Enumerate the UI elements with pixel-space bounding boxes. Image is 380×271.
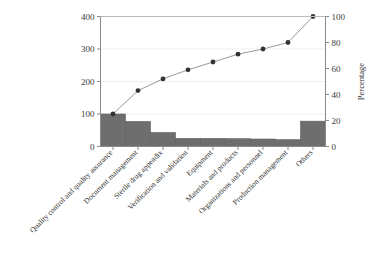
y-tick-label-right-2: 40 <box>332 90 342 100</box>
cumulative-point-8 <box>286 40 291 45</box>
bar-3 <box>151 133 176 147</box>
y-tick-label-right-0: 0 <box>332 142 337 152</box>
bar-8 <box>276 140 301 147</box>
percentage-axis-title: Percentage <box>356 63 366 101</box>
bar-2 <box>126 121 151 146</box>
cumulative-point-6 <box>236 52 241 57</box>
y-tick-label-left-4: 400 <box>81 12 95 22</box>
chart-canvas: 0100200300400 020406080100 Quality contr… <box>0 0 380 271</box>
y-tick-label-left-1: 100 <box>81 109 95 119</box>
bar-1 <box>101 114 126 147</box>
y-tick-label-left-3: 300 <box>81 44 95 54</box>
cumulative-point-5 <box>211 60 216 65</box>
y-tick-label-left-0: 0 <box>90 142 95 152</box>
cumulative-point-7 <box>261 47 266 52</box>
y-tick-label-right-1: 20 <box>332 116 342 126</box>
cumulative-point-2 <box>136 88 141 93</box>
y-tick-label-right-5: 100 <box>332 12 346 22</box>
bar-4 <box>176 138 201 146</box>
y-axis-right-title: Percentage <box>356 63 366 101</box>
bar-5 <box>201 138 226 146</box>
y-tick-label-left-2: 200 <box>81 77 95 87</box>
cumulative-point-3 <box>161 77 166 82</box>
y-tick-label-right-4: 80 <box>332 38 342 48</box>
cumulative-point-4 <box>186 67 191 72</box>
cumulative-point-1 <box>111 112 116 117</box>
bar-9 <box>301 121 326 146</box>
bar-6 <box>226 139 251 147</box>
y-tick-label-right-3: 60 <box>332 64 342 74</box>
bar-7 <box>251 139 276 146</box>
pareto-chart: 0100200300400 020406080100 Quality contr… <box>0 0 380 271</box>
